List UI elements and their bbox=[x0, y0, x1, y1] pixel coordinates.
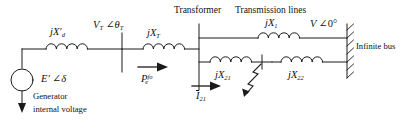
caption-generator-line1: Generator bbox=[33, 92, 67, 101]
power-system-diagram: Transformer Transmission lines jX′d VT ∠… bbox=[0, 0, 408, 131]
label-line21-reactance: jX21 bbox=[215, 70, 231, 81]
inductor-line21-reactance bbox=[210, 57, 252, 62]
fault-lightning-symbol bbox=[247, 64, 261, 93]
caption-generator-line2: internal voltage bbox=[33, 105, 87, 114]
fault-arrowhead bbox=[242, 88, 249, 97]
generator-symbol bbox=[11, 69, 33, 91]
label-infinite-bus-voltage: V ∠0° bbox=[310, 19, 337, 30]
inductor-generator-reactance bbox=[46, 44, 88, 49]
inductor-transformer-reactance bbox=[143, 44, 185, 49]
power-flow-arrowhead bbox=[157, 63, 168, 72]
label-generator-emf: E′ ∠δ bbox=[41, 74, 66, 85]
section-label-transmission-lines: Transmission lines bbox=[235, 6, 306, 16]
inductor-line22-reactance bbox=[281, 57, 323, 62]
caption-infinite-bus: Infinite bus bbox=[356, 42, 395, 51]
generator-arrowhead bbox=[18, 103, 26, 113]
section-label-transformer: Transformer bbox=[174, 6, 221, 16]
current-arrowhead bbox=[210, 82, 221, 91]
generator-reactance-text: jX′d bbox=[50, 26, 65, 37]
label-generator-reactance: jX′d bbox=[50, 27, 65, 38]
label-line22-reactance: jX22 bbox=[288, 70, 304, 81]
label-line1-reactance: jX1 bbox=[265, 18, 278, 29]
inductor-line1-reactance bbox=[258, 33, 300, 38]
label-line-current: I21 bbox=[196, 91, 206, 102]
label-electrical-power: Pfoe bbox=[141, 74, 148, 86]
label-transformer-reactance: jXT bbox=[147, 28, 160, 39]
label-terminal-voltage: VT ∠θT bbox=[93, 20, 123, 31]
infinite-bus-hatching bbox=[347, 24, 354, 78]
